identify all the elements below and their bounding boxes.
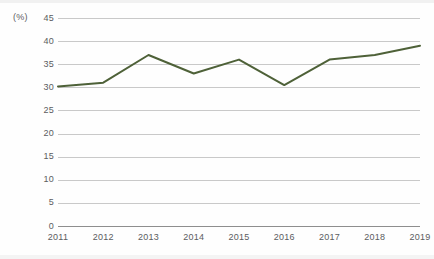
- x-tick-label: 2019: [398, 232, 434, 242]
- x-tick-label: 2012: [81, 232, 125, 242]
- x-tick-label: 2017: [308, 232, 352, 242]
- x-tick-label: 2011: [36, 232, 80, 242]
- x-tick-label: 2018: [353, 232, 397, 242]
- x-tick-label: 2013: [127, 232, 171, 242]
- page-edge-bottom: [0, 255, 434, 259]
- series-line: [58, 46, 420, 87]
- line-chart: (%) 454035302520151050 20112012201320142…: [0, 0, 434, 259]
- x-axis-tick-labels: 201120122013201420152016201720182019: [58, 232, 420, 248]
- series-layer: [0, 0, 434, 259]
- x-tick-label: 2015: [217, 232, 261, 242]
- x-tick-label: 2016: [262, 232, 306, 242]
- x-tick-label: 2014: [172, 232, 216, 242]
